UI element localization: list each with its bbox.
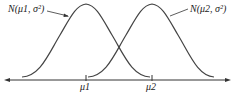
normal-curve-1: [22, 4, 150, 77]
arrowhead-1-icon: [64, 14, 70, 18]
left-arrow-icon: [4, 78, 10, 82]
right-arrow-icon: [225, 78, 231, 82]
mu2-label: μ2: [146, 81, 156, 92]
curve-1-label: N(μ1, σ²): [8, 3, 44, 14]
normal-curve-2: [88, 4, 214, 77]
curve-2-label: N(μ2, σ²): [190, 3, 226, 14]
mu1-label: μ1: [80, 81, 90, 92]
leader-line-2: [170, 9, 188, 16]
